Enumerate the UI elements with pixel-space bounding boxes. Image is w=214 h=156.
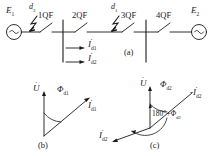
phasor-c-voltage-label: ·U: [140, 79, 147, 88]
phasor-b-current-label: ·Id1: [88, 101, 97, 112]
panel-a-caption: (a): [124, 48, 133, 57]
source-right-label: E2: [191, 6, 199, 17]
figure-root: E1 E2 d2 d1 1QF 2QF 3QF 4QF ·Id1 ·Id2 (a…: [0, 0, 214, 156]
breaker-1qf-blade: [40, 23, 52, 32]
source-right-sine: [195, 30, 204, 33]
breaker-2qf-label: 2QF: [72, 11, 87, 20]
phasor-c-current-neg-label: ·-Id2: [190, 88, 202, 99]
current-id2-label: ·Id2: [88, 54, 97, 65]
breaker-3qf-label: 3QF: [121, 11, 136, 20]
breaker-4qf-label: 4QF: [156, 11, 171, 20]
fault-d1-symbol: [112, 16, 119, 31]
breaker-4qf-blade: [158, 23, 170, 32]
phasor-c-current-label: ·Id2: [99, 131, 108, 142]
current-arrow-id2: [66, 60, 84, 64]
fault-d1-label: d1: [111, 3, 117, 14]
breaker-2qf-blade: [75, 23, 87, 32]
fault-d2-label: d2: [29, 3, 35, 14]
source-left-label: E1: [6, 6, 14, 17]
phasor-b-angle-arc: [44, 113, 61, 122]
fault-d2-symbol: [30, 16, 37, 31]
phasor-c-angle-big-label: 180°+Φd2: [152, 110, 181, 120]
phasor-c-current-vector: [112, 128, 150, 142]
phasor-b-angle-label: Φd1: [57, 85, 69, 96]
phasor-c-angle-label: Φd2: [160, 80, 172, 91]
panel-c-caption: (c): [150, 141, 159, 150]
current-arrow-id1: [66, 46, 84, 50]
breaker-1qf-label: 1QF: [38, 11, 53, 20]
phasor-b-current-vector: [44, 98, 90, 137]
phasor-b-voltage-label: ·U: [33, 84, 40, 93]
breaker-3qf-blade: [122, 23, 134, 32]
panel-b-caption: (b): [38, 141, 48, 150]
source-left-sine: [10, 30, 19, 33]
